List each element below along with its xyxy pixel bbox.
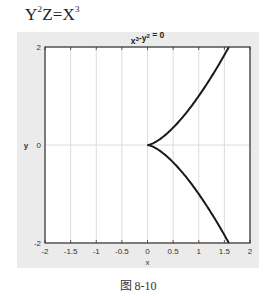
x-tick-label: -2 bbox=[41, 247, 49, 256]
figure-caption: 图 8-10 bbox=[0, 276, 276, 294]
y-tick-label: 0 bbox=[37, 141, 42, 150]
x-tick-label: 0 bbox=[145, 247, 150, 256]
chart-title: x3-y2 = 0 bbox=[131, 30, 165, 46]
x-tick-label: -0.5 bbox=[115, 247, 129, 256]
x-tick-label: -1 bbox=[93, 247, 101, 256]
y-axis-label: y bbox=[24, 141, 29, 150]
x-tick-label: 0.5 bbox=[168, 247, 180, 256]
y-tick-label: 2 bbox=[37, 43, 42, 52]
x-tick-label: 2 bbox=[248, 247, 253, 256]
y-tick-label: -2 bbox=[34, 239, 42, 248]
x-axis-label: x bbox=[146, 258, 150, 267]
x-tick-label: 1 bbox=[197, 247, 202, 256]
x-tick-label: 1.5 bbox=[219, 247, 231, 256]
plot: -2-1.5-1-0.500.511.52-202xyx3-y2 = 0 bbox=[0, 0, 276, 297]
x-tick-label: -1.5 bbox=[64, 247, 78, 256]
